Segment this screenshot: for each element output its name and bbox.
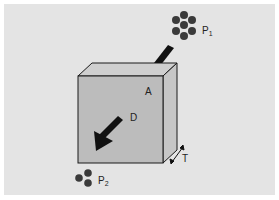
membrane-cube — [78, 63, 177, 163]
cube-top-face — [78, 63, 177, 76]
label-area: A — [145, 86, 152, 97]
diffusion-diagram: P1 P2 A D T — [0, 0, 279, 200]
label-p1: P1 — [202, 25, 213, 37]
label-p2: P2 — [98, 175, 109, 187]
particle-group-p1 — [172, 11, 196, 40]
label-thickness: T — [182, 153, 188, 164]
label-diffusion: D — [130, 112, 137, 123]
particle-group-p2 — [75, 169, 92, 187]
cube-side-face — [163, 63, 177, 163]
